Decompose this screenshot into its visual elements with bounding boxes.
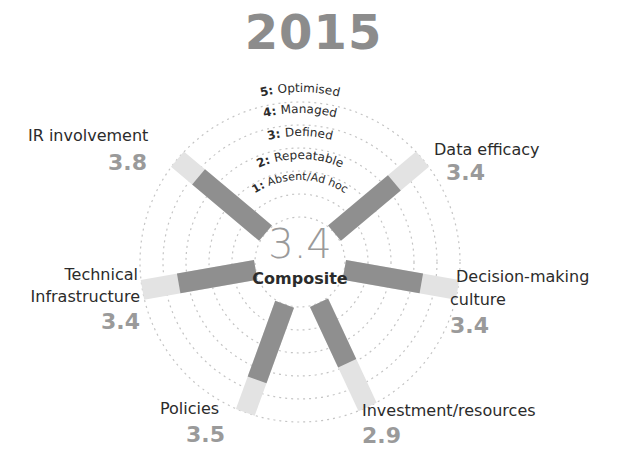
category-label-technical-infrastructure-line1: Technical bbox=[65, 265, 138, 284]
category-label-ir-involvement: IR involvement bbox=[28, 126, 148, 145]
scale-level-2: 2: Repeatable bbox=[254, 148, 345, 170]
bar-fill bbox=[177, 260, 257, 293]
category-value-technical-infrastructure: 3.4 bbox=[101, 309, 140, 334]
bar-decision-making-culture bbox=[343, 260, 460, 300]
bar-ir-involvement bbox=[171, 151, 272, 240]
category-label-decision-making-culture-line1: Decision-making bbox=[456, 267, 589, 286]
composite-label: Composite bbox=[252, 269, 348, 288]
bar-data-efficacy bbox=[328, 151, 429, 240]
bar-fill bbox=[343, 260, 423, 293]
scale-level-3: 3: Defined bbox=[266, 125, 335, 143]
scale-level-5: 5: Optimised bbox=[259, 81, 342, 100]
category-label-investment-resources: Investment/resources bbox=[362, 401, 536, 420]
bar-fill bbox=[310, 299, 356, 368]
scale-level-1: 1: Absent/Ad hoc bbox=[250, 170, 351, 196]
category-value-data-efficacy: 3.4 bbox=[446, 160, 485, 185]
maturity-radial-chart: 2015 1: Absent/Ad hoc2: Repeatable3: Def… bbox=[0, 0, 627, 469]
category-value-policies: 3.5 bbox=[186, 422, 225, 447]
category-value-investment-resources: 2.9 bbox=[362, 423, 401, 448]
category-label-policies: Policies bbox=[160, 399, 219, 418]
composite-value: 3.4 bbox=[268, 221, 332, 267]
bar-fill bbox=[248, 301, 294, 383]
category-label-technical-infrastructure-line2: Infrastructure bbox=[31, 287, 140, 306]
category-value-decision-making-culture: 3.4 bbox=[450, 313, 489, 338]
bar-investment-resources bbox=[310, 299, 377, 412]
category-label-decision-making-culture-line2: culture bbox=[450, 290, 506, 309]
category-value-ir-involvement: 3.8 bbox=[108, 150, 147, 175]
scale-level-4: 4: Managed bbox=[262, 102, 339, 120]
radial-plot: 1: Absent/Ad hoc2: Repeatable3: Defined4… bbox=[0, 0, 627, 469]
category-label-data-efficacy: Data efficacy bbox=[434, 140, 539, 159]
